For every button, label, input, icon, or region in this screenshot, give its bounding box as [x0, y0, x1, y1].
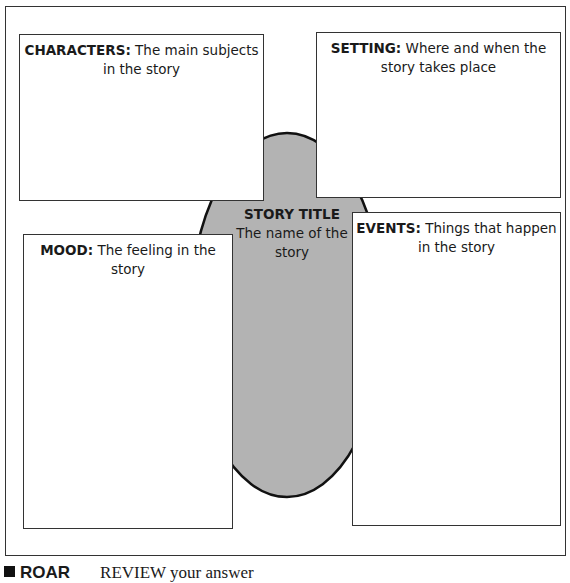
characters-box[interactable]: CHARACTERS: The main subjects in the sto… [19, 34, 264, 201]
events-description: Things that happen in the story [418, 220, 557, 255]
story-title-text: STORY TITLE The name of the story [232, 205, 352, 262]
footer-instruction: ROARREVIEW your answer [4, 563, 254, 583]
events-label: EVENTS: [356, 220, 421, 236]
events-box[interactable]: EVENTS: Things that happen in the story [352, 212, 561, 526]
mood-box[interactable]: MOOD: The feeling in the story [23, 234, 233, 529]
setting-description: Where and when the story takes place [381, 40, 546, 75]
story-title-label: STORY TITLE [244, 206, 340, 222]
mood-description: The feeling in the story [93, 242, 216, 277]
footer-text: REVIEW your answer [100, 563, 254, 582]
characters-label: CHARACTERS: [24, 42, 130, 58]
mood-label: MOOD: [40, 242, 93, 258]
story-title-description: The name of the story [236, 225, 347, 260]
bullet-square-icon [4, 566, 15, 577]
setting-label: SETTING: [331, 40, 401, 56]
setting-box[interactable]: SETTING: Where and when the story takes … [316, 32, 561, 198]
footer-tag: ROAR [20, 563, 70, 582]
